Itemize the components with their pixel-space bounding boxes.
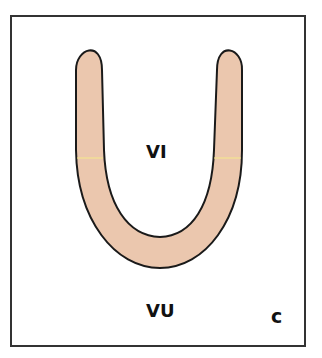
label-inner-region: VI	[146, 143, 167, 161]
label-outer-region: VU	[146, 302, 175, 320]
panel-letter: c	[271, 307, 282, 326]
